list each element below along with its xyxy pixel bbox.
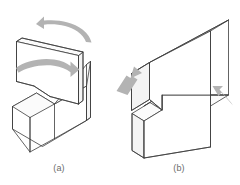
isometric-blocks-diagram: .edge { fill: none; stroke: #3c3c3c; str…	[0, 0, 240, 185]
figure-root: .edge { fill: none; stroke: #3c3c3c; str…	[0, 0, 240, 185]
upper-block-a-right-face	[79, 52, 84, 104]
caption-subfigure-b: (b)	[120, 163, 238, 173]
caption-subfigure-a: (a)	[0, 163, 118, 173]
